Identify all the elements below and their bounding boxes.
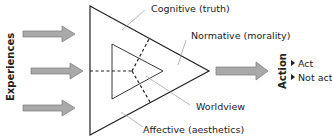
experience-arrow-bottom (23, 100, 75, 116)
cognitive-label: Cognitive (truth) (151, 4, 230, 14)
affective-label: Affective (aesthetics) (143, 125, 244, 135)
experience-arrow-top (23, 26, 75, 42)
bullet-triangle-icon (291, 60, 295, 66)
action-label: Action (278, 51, 288, 91)
experience-arrow-middle (31, 63, 83, 79)
action-arrow (216, 62, 268, 80)
experience-arrows (23, 26, 83, 116)
action-option-act: Act (291, 59, 313, 69)
bullet-triangle-icon (291, 74, 295, 80)
worldview-label: Worldview (196, 102, 245, 112)
action-option-not-act: Not act (291, 73, 332, 83)
experiences-label: Experiences (6, 41, 16, 101)
leader-lines (121, 10, 190, 127)
normative-label: Normative (morality) (191, 31, 290, 41)
